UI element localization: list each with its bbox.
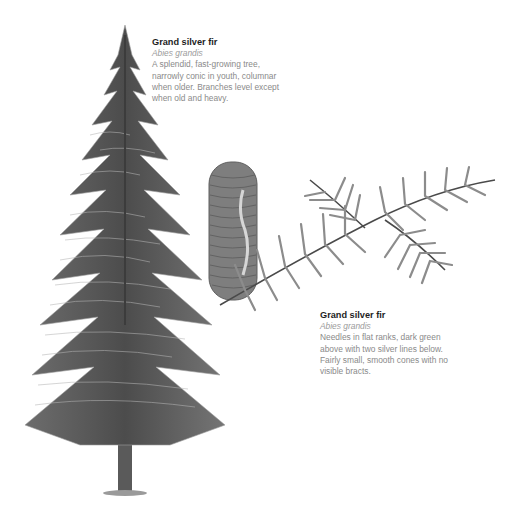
branch-caption-title: Grand silver fir bbox=[320, 310, 450, 321]
tree-caption-description: A splendid, fast-growing tree, narrowly … bbox=[152, 59, 282, 104]
tree-caption-latin-name: Abies grandis bbox=[152, 48, 282, 59]
branch-caption: Grand silver fir Abies grandis Needles i… bbox=[320, 310, 450, 377]
tree-caption-title: Grand silver fir bbox=[152, 37, 282, 48]
branch-caption-description: Needles in flat ranks, dark green above … bbox=[320, 332, 450, 377]
branch-caption-latin-name: Abies grandis bbox=[320, 321, 450, 332]
needle-branch-illustration bbox=[215, 160, 505, 320]
tree-caption: Grand silver fir Abies grandis A splendi… bbox=[152, 37, 282, 104]
